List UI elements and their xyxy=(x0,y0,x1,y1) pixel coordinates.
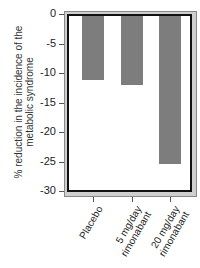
x-tick xyxy=(132,197,133,202)
y-tick-label: -5 xyxy=(26,37,56,49)
y-axis-label-line-1: % reduction in the incidence of the xyxy=(13,14,24,190)
y-tick-label: -15 xyxy=(26,96,56,108)
x-tick-label: Placebo xyxy=(77,204,105,241)
y-tick xyxy=(59,191,64,192)
y-tick xyxy=(59,103,64,104)
x-tick xyxy=(170,197,171,202)
bar xyxy=(159,16,181,164)
x-tick-label: 5 mg/dayrimonabant xyxy=(109,204,153,258)
y-tick xyxy=(59,132,64,133)
y-tick-label: -10 xyxy=(26,66,56,78)
x-tick xyxy=(93,197,94,202)
y-tick xyxy=(59,14,64,15)
y-tick-label: -20 xyxy=(26,125,56,137)
y-tick-label: 0 xyxy=(26,7,56,19)
y-tick-label: -30 xyxy=(26,184,56,196)
y-tick-label: -25 xyxy=(26,155,56,167)
y-tick xyxy=(59,44,64,45)
y-tick xyxy=(59,162,64,163)
bar xyxy=(82,16,104,80)
x-tick-label: 20 mg/dayrimonabant xyxy=(147,204,191,258)
y-tick xyxy=(59,73,64,74)
bar xyxy=(121,16,143,85)
